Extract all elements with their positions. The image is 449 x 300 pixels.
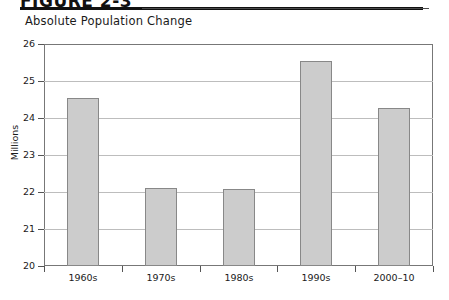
x-axis-tick-mark bbox=[122, 266, 123, 272]
y-axis-tick-mark bbox=[38, 118, 44, 119]
y-axis-tick-mark bbox=[38, 81, 44, 82]
x-axis-tick-mark bbox=[277, 266, 278, 272]
x-axis-tick-label: 1970s bbox=[121, 272, 201, 283]
bar bbox=[223, 189, 255, 266]
gridline bbox=[44, 155, 433, 156]
y-axis-tick-label: 22 bbox=[0, 186, 35, 198]
bar bbox=[145, 188, 177, 266]
bar bbox=[378, 108, 410, 266]
y-axis-title: Millions bbox=[9, 113, 20, 173]
gridline bbox=[44, 118, 433, 119]
y-axis-tick-mark bbox=[38, 192, 44, 193]
y-axis-tick-label-text: 20 bbox=[0, 260, 35, 271]
y-axis-tick-label-text: 25 bbox=[0, 75, 35, 86]
x-axis-tick-mark bbox=[200, 266, 201, 272]
y-axis-tick-mark bbox=[38, 155, 44, 156]
y-axis-tick-label-text: 26 bbox=[0, 38, 35, 49]
x-axis-tick-label: 1980s bbox=[199, 272, 279, 283]
bar bbox=[300, 61, 332, 266]
y-axis-tick-label: 20 bbox=[0, 260, 35, 272]
gridline bbox=[44, 81, 433, 82]
x-axis-tick-mark bbox=[433, 266, 434, 272]
y-axis-tick-label: 21 bbox=[0, 223, 35, 235]
figure-heading-rule-thin bbox=[142, 8, 429, 9]
y-axis-tick-label: 25 bbox=[0, 75, 35, 87]
x-axis-tick-label: 1990s bbox=[276, 272, 356, 283]
y-axis-tick-label-text: 22 bbox=[0, 186, 35, 197]
x-axis-tick-mark bbox=[355, 266, 356, 272]
x-axis-tick-label: 1960s bbox=[43, 272, 123, 283]
bar bbox=[67, 98, 99, 266]
y-axis-tick-mark bbox=[38, 44, 44, 45]
chart-subtitle: Absolute Population Change bbox=[25, 14, 192, 28]
y-axis-tick-label: 26 bbox=[0, 38, 35, 50]
x-axis-tick-mark bbox=[44, 266, 45, 272]
y-axis-tick-label-text: 21 bbox=[0, 223, 35, 234]
y-axis-tick-mark bbox=[38, 229, 44, 230]
x-axis-tick-label: 2000–10 bbox=[354, 272, 434, 283]
